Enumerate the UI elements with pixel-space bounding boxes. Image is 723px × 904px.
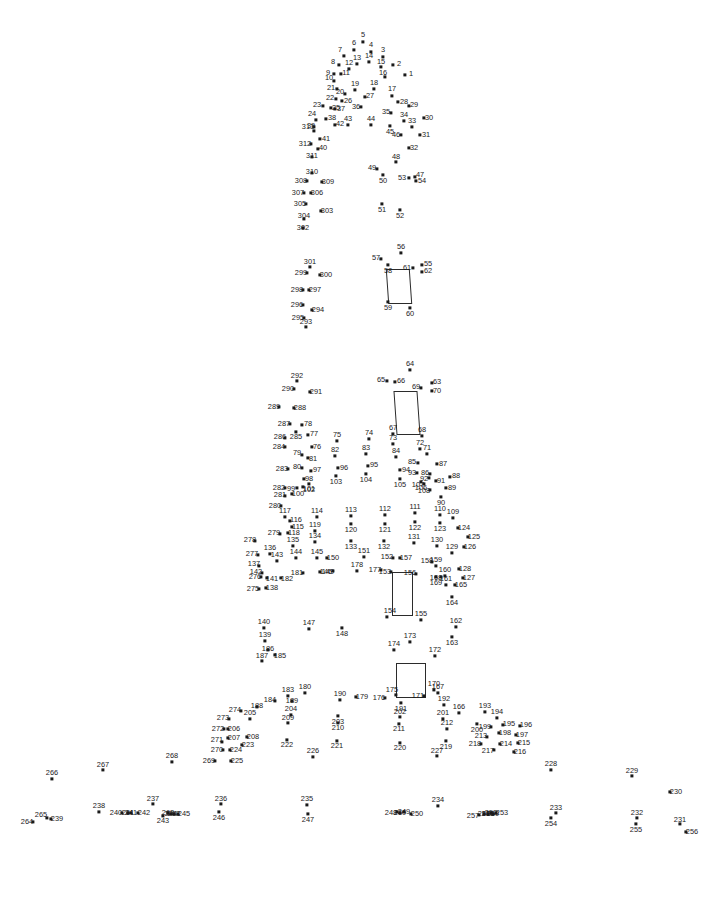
puzzle-dot-label-149: 149 (322, 568, 334, 575)
puzzle-dot-label-96: 96 (340, 464, 348, 471)
puzzle-dot-label-138: 138 (266, 584, 278, 591)
puzzle-dot-label-31: 31 (422, 131, 430, 138)
puzzle-dot-label-49: 49 (368, 164, 376, 171)
puzzle-dot-label-133: 133 (345, 543, 357, 550)
puzzle-dot-label-8: 8 (331, 58, 335, 65)
puzzle-dot-label-190: 190 (334, 690, 346, 697)
puzzle-dot-154 (385, 615, 388, 618)
puzzle-dot-34 (402, 119, 405, 122)
puzzle-dot-label-152: 152 (381, 553, 393, 560)
puzzle-dot-label-135: 135 (287, 536, 299, 543)
puzzle-dot-label-119: 119 (309, 521, 321, 528)
puzzle-dot-label-114: 114 (311, 507, 323, 514)
puzzle-dot-22 (334, 97, 337, 100)
puzzle-dot-label-51: 51 (378, 206, 386, 213)
puzzle-dot-label-15: 15 (377, 58, 385, 65)
puzzle-dot-label-7: 7 (338, 46, 342, 53)
puzzle-dot-label-170: 170 (428, 680, 440, 687)
puzzle-dot-label-207: 207 (228, 734, 240, 741)
puzzle-dot-label-311: 311 (306, 152, 318, 159)
puzzle-dot-label-198: 198 (499, 729, 511, 736)
puzzle-dot-label-174: 174 (388, 640, 400, 647)
puzzle-dot-143 (275, 559, 278, 562)
puzzle-dot-75 (335, 439, 338, 442)
puzzle-dot-label-121: 121 (379, 526, 391, 533)
puzzle-dot-label-27: 27 (366, 92, 374, 99)
puzzle-dot-83 (364, 452, 367, 455)
puzzle-dot-label-193: 193 (479, 702, 491, 709)
puzzle-dot-label-270: 270 (211, 746, 223, 753)
puzzle-dot-205 (248, 717, 251, 720)
puzzle-dot-label-286: 286 (274, 433, 286, 440)
puzzle-dot-170 (432, 688, 435, 691)
puzzle-dot-label-81: 81 (309, 455, 317, 462)
puzzle-dot-label-58: 58 (384, 267, 392, 274)
puzzle-dot-226 (311, 755, 314, 758)
puzzle-dot-74 (367, 437, 370, 440)
puzzle-dot-label-237: 237 (147, 795, 159, 802)
puzzle-dot-label-246: 246 (213, 814, 225, 821)
puzzle-dot-label-285: 285 (290, 433, 302, 440)
puzzle-dot-8 (337, 63, 340, 66)
puzzle-dot-166 (457, 711, 460, 714)
puzzle-dot-label-210: 210 (332, 724, 344, 731)
puzzle-dot-130 (435, 544, 438, 547)
puzzle-dot-14 (367, 60, 370, 63)
puzzle-dot-label-247: 247 (302, 816, 314, 823)
puzzle-dot-label-18: 18 (370, 79, 378, 86)
puzzle-dot-label-242: 242 (138, 809, 150, 816)
puzzle-dot-label-1: 1 (409, 70, 413, 77)
puzzle-dot-82 (333, 454, 336, 457)
puzzle-dot-label-236: 236 (215, 795, 227, 802)
puzzle-dot-label-122: 122 (409, 524, 421, 531)
puzzle-dot-label-281: 281 (274, 491, 286, 498)
puzzle-dot-label-220: 220 (394, 744, 406, 751)
puzzle-dot-label-183: 183 (282, 686, 294, 693)
puzzle-dot-label-59: 59 (384, 304, 392, 311)
puzzle-dot-label-108: 108 (418, 487, 430, 494)
puzzle-dot-label-95: 95 (370, 461, 378, 468)
puzzle-dot-label-80: 80 (293, 463, 301, 470)
puzzle-dot-131 (412, 541, 415, 544)
puzzle-dot-label-274: 274 (229, 706, 241, 713)
puzzle-dot-label-290: 290 (282, 385, 294, 392)
puzzle-dot-114 (315, 515, 318, 518)
puzzle-dot-266 (50, 777, 53, 780)
puzzle-dot-label-229: 229 (626, 767, 638, 774)
puzzle-dot-label-132: 132 (378, 543, 390, 550)
puzzle-dot-label-214: 214 (500, 740, 512, 747)
puzzle-dot-label-306: 306 (311, 189, 323, 196)
puzzle-dot-label-123: 123 (434, 525, 446, 532)
puzzle-dot-label-14: 14 (365, 52, 373, 59)
puzzle-dot-label-128: 128 (459, 565, 471, 572)
puzzle-dot-label-159: 159 (430, 556, 442, 563)
puzzle-dot-label-162: 162 (450, 617, 462, 624)
puzzle-dot-151 (362, 555, 365, 558)
puzzle-dot-72 (418, 447, 421, 450)
puzzle-dot-label-70: 70 (433, 387, 441, 394)
puzzle-dot-label-179: 179 (356, 693, 368, 700)
puzzle-dot-label-104: 104 (360, 476, 372, 483)
puzzle-dot-label-185: 185 (274, 652, 286, 659)
puzzle-dot-64 (408, 368, 411, 371)
puzzle-dot-1 (403, 73, 406, 76)
puzzle-dot-label-254: 254 (545, 820, 557, 827)
puzzle-dot-label-313: 313 (302, 123, 314, 130)
puzzle-dot-label-144: 144 (290, 548, 302, 555)
puzzle-dot-label-184: 184 (264, 696, 276, 703)
puzzle-dot-label-268: 268 (166, 752, 178, 759)
puzzle-dot-label-24: 24 (308, 110, 316, 117)
puzzle-dot-label-166: 166 (453, 703, 465, 710)
puzzle-dot-label-187: 187 (256, 652, 268, 659)
puzzle-dot-label-74: 74 (365, 429, 373, 436)
puzzle-dot-label-82: 82 (331, 446, 339, 453)
puzzle-dot-label-143: 143 (271, 551, 283, 558)
puzzle-dot-label-217: 217 (482, 747, 494, 754)
puzzle-dot-193 (483, 710, 486, 713)
puzzle-dot-label-21: 21 (327, 84, 335, 91)
puzzle-dot-label-298: 298 (291, 286, 303, 293)
puzzle-dot-label-202: 202 (394, 708, 406, 715)
puzzle-dot-label-134: 134 (309, 532, 321, 539)
puzzle-dot-111 (413, 511, 416, 514)
puzzle-dot-label-46: 46 (392, 131, 400, 138)
